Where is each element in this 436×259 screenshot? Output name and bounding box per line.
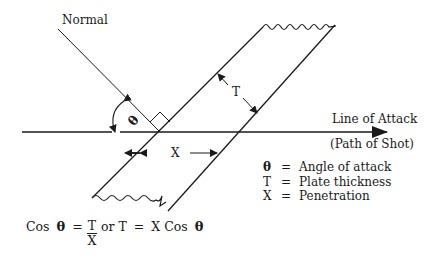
- angle-arc: [113, 101, 124, 132]
- formula-cos: Cos: [26, 219, 50, 234]
- formula-theta: θ: [57, 219, 66, 234]
- formula-equals-2: =: [134, 219, 144, 234]
- legend-meaning: Angle of attack: [299, 160, 391, 175]
- legend-symbol: T: [263, 175, 281, 190]
- legend-meaning: Plate thickness: [299, 175, 391, 190]
- legend-equals: =: [281, 175, 299, 190]
- thickness-label: T: [232, 86, 240, 98]
- formula-equals: =: [72, 219, 82, 234]
- plate-bottom-torn-edge: [92, 196, 166, 207]
- fraction-numerator: T: [87, 219, 97, 234]
- path-of-shot-label: (Path of Shot): [330, 138, 414, 150]
- legend-meaning: Penetration: [299, 189, 370, 204]
- legend-symbol: X: [263, 189, 281, 204]
- legend-equals: =: [281, 160, 299, 175]
- cosine-formula: Cos θ = T X or T = X Cos θ: [26, 219, 203, 248]
- formula-rhs: X Cos: [151, 219, 187, 234]
- legend-row-thickness: T = Plate thickness: [263, 175, 391, 190]
- line-of-attack-label: Line of Attack: [332, 113, 417, 125]
- legend-row-angle: θ = Angle of attack: [263, 160, 391, 175]
- plate-top-torn-edge: [263, 25, 336, 30]
- legend-row-penetration: X = Penetration: [263, 189, 391, 204]
- formula-fraction: T X: [87, 219, 97, 248]
- legend: θ = Angle of attack T = Plate thickness …: [263, 160, 391, 204]
- legend-equals: =: [281, 189, 299, 204]
- fraction-denominator: X: [87, 234, 96, 248]
- formula-or: or T: [101, 219, 127, 234]
- penetration-label: X: [171, 147, 180, 159]
- normal-line: [58, 29, 160, 132]
- legend-symbol: θ: [263, 160, 281, 175]
- normal-label: Normal: [62, 14, 108, 26]
- plate-left-edge: [92, 27, 263, 198]
- formula-theta-2: θ: [195, 219, 204, 234]
- right-angle-marker: [150, 112, 170, 122]
